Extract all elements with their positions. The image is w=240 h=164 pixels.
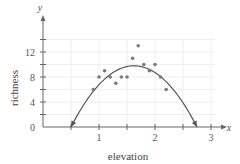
- data-point: [114, 81, 118, 85]
- y-tick-label: 0: [30, 122, 35, 133]
- points-group: [92, 44, 168, 91]
- chart: 04812123 y x elevation richness: [0, 0, 240, 164]
- y-axis-variable: y: [37, 2, 43, 13]
- data-point: [142, 63, 146, 67]
- y-tick-label: 4: [30, 97, 35, 108]
- data-point: [164, 88, 168, 92]
- x-tick-label: 3: [209, 132, 214, 143]
- y-axis-arrow-icon: [41, 15, 46, 21]
- data-point: [153, 63, 157, 67]
- fit-curve: [71, 66, 197, 127]
- fit-curve-group: [71, 66, 197, 127]
- data-point: [97, 75, 101, 79]
- x-axis-variable: x: [226, 122, 232, 133]
- data-point: [125, 75, 129, 79]
- data-point: [92, 88, 96, 92]
- data-point: [148, 69, 152, 73]
- data-point: [120, 75, 124, 79]
- data-point: [108, 75, 112, 79]
- data-point: [131, 56, 135, 60]
- data-point: [103, 69, 107, 73]
- data-point: [136, 44, 140, 48]
- x-tick-label: 1: [97, 132, 102, 143]
- x-tick-label: 2: [153, 132, 158, 143]
- axes: [41, 15, 228, 130]
- y-tick-label: 12: [25, 47, 35, 58]
- x-axis-title: elevation: [108, 150, 149, 162]
- data-point: [159, 75, 163, 79]
- y-axis-title: richness: [8, 70, 20, 106]
- y-tick-label: 8: [30, 72, 35, 83]
